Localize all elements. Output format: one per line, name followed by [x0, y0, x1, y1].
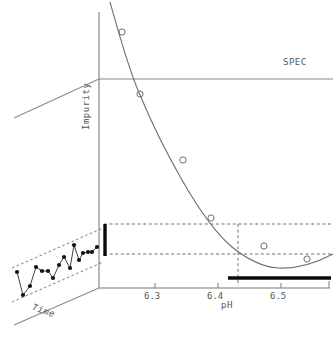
run-chart-point	[28, 284, 32, 288]
chart-canvas: SPEC Impurity pH Time 6.3 6.4 6.5	[0, 0, 336, 337]
run-chart-point	[21, 293, 25, 297]
x-tick-label-6-4: 6.4	[207, 291, 223, 301]
x-tick-label-6-3: 6.3	[144, 291, 160, 301]
run-chart-upper-band	[12, 228, 103, 268]
run-chart-point	[40, 269, 44, 273]
run-chart-point	[46, 269, 50, 273]
data-point-marker	[208, 215, 214, 221]
chart-svg	[0, 0, 336, 337]
y-axis-title: Impurity	[81, 83, 91, 130]
run-chart-point	[77, 258, 81, 262]
run-chart-point	[68, 266, 72, 270]
run-chart-point	[15, 270, 19, 274]
data-point-marker	[180, 157, 186, 163]
x-tick-label-6-5: 6.5	[270, 291, 286, 301]
run-chart-point	[86, 250, 90, 254]
run-chart-point	[95, 245, 99, 249]
run-chart-point	[51, 276, 55, 280]
data-point-marker	[119, 29, 125, 35]
x-axis-title: pH	[221, 300, 233, 310]
spec-limit-label: SPEC	[283, 57, 307, 67]
run-chart-point	[72, 243, 76, 247]
run-chart-point	[90, 250, 94, 254]
data-point-marker	[261, 243, 267, 249]
run-chart-point	[57, 263, 61, 267]
data-point-marker	[304, 256, 310, 262]
run-chart-point	[81, 251, 85, 255]
z-axis-time	[14, 288, 99, 325]
response-curve	[110, 2, 333, 268]
run-chart-point	[62, 255, 66, 259]
run-chart-point	[34, 265, 38, 269]
